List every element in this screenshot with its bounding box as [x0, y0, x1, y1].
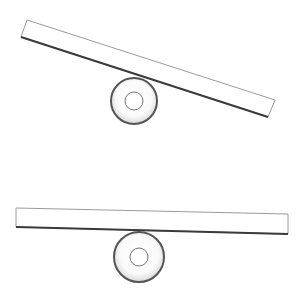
tilted-lever	[21, 20, 275, 124]
level-fulcrum-hub	[130, 248, 148, 266]
tilted-fulcrum-hub	[125, 92, 143, 110]
level-lever	[16, 208, 288, 282]
lever-diagram	[0, 0, 300, 296]
